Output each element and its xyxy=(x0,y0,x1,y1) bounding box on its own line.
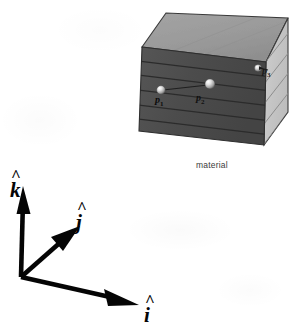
block-front-face xyxy=(130,47,280,145)
axis-label-i: i xyxy=(144,305,150,326)
sphere-p1 xyxy=(157,86,166,95)
point-label-p3-sub: 3 xyxy=(267,71,271,79)
material-caption: material xyxy=(196,160,228,170)
axis-j xyxy=(21,226,80,277)
axis-label-j: j xyxy=(76,212,82,233)
point-label-p2: p2 xyxy=(196,93,205,106)
point-label-p1: p1 xyxy=(155,95,164,108)
sphere-p2 xyxy=(205,79,215,89)
point-label-p1-sub: 1 xyxy=(160,100,164,108)
point-label-p3: p3 xyxy=(262,66,271,79)
point-label-p2-sub: 2 xyxy=(201,98,205,106)
axis-i xyxy=(21,277,139,306)
axis-label-k: k xyxy=(10,180,21,201)
